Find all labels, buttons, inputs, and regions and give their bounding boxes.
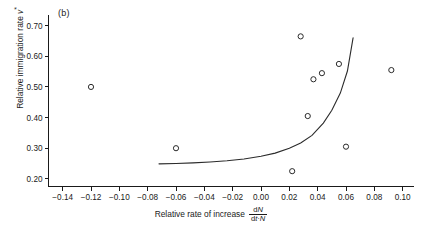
x-axis-title-prefix: Relative rate of increase <box>155 209 245 219</box>
x-tick-label: 0.00 <box>253 193 269 202</box>
x-tick-label: −0.06 <box>166 193 187 202</box>
data-point-marker <box>343 144 348 149</box>
x-tick-label: −0.04 <box>194 193 215 202</box>
y-axis-title-text: Relative immigration rate v* <box>15 7 25 109</box>
data-point-marker <box>305 113 310 118</box>
data-point-marker <box>298 34 303 39</box>
x-tick-label: −0.02 <box>222 193 243 202</box>
y-tick-label: 0.60 <box>27 52 43 61</box>
y-tick-label: 0.30 <box>27 144 43 153</box>
data-point-marker <box>389 67 394 72</box>
data-point-marker <box>173 146 178 151</box>
data-point-marker <box>290 169 295 174</box>
x-tick-label: 0.10 <box>395 193 411 202</box>
x-tick-label: 0.06 <box>338 193 354 202</box>
y-tick-label: 0.70 <box>27 22 43 31</box>
figure-panel-b: (b) −0.14−0.12−0.10−0.08−0.06−0.04−0.020… <box>0 0 422 232</box>
x-tick-label: −0.10 <box>109 193 130 202</box>
x-tick-label: −0.12 <box>81 193 102 202</box>
fraction-denominator: dt·N <box>249 214 267 223</box>
data-point-marker <box>336 61 341 66</box>
x-tick-label: 0.02 <box>281 193 297 202</box>
data-point-marker <box>311 77 316 82</box>
x-tick-label: 0.08 <box>366 193 382 202</box>
scatter-plot-canvas: −0.14−0.12−0.10−0.08−0.06−0.04−0.020.000… <box>0 0 422 232</box>
x-axis-title-fraction: dN dt·N <box>249 206 267 223</box>
fitted-curve <box>159 38 353 164</box>
fraction-numerator: dN <box>251 206 265 214</box>
x-axis-title: Relative rate of increase dN dt·N <box>0 206 422 223</box>
y-tick-label: 0.40 <box>27 114 43 123</box>
x-tick-label: 0.04 <box>310 193 326 202</box>
x-tick-label: −0.14 <box>52 193 73 202</box>
y-axis-title: Relative immigration rate v* <box>13 0 25 133</box>
x-tick-label: −0.08 <box>137 193 158 202</box>
y-tick-label: 0.50 <box>27 83 43 92</box>
data-point-marker <box>319 71 324 76</box>
data-point-marker <box>88 84 93 89</box>
y-tick-label: 0.20 <box>27 175 43 184</box>
